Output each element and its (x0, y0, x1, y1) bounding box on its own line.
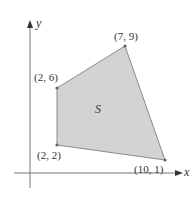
diagram-svg (0, 0, 195, 198)
vertex-point (123, 44, 126, 47)
y-axis-arrow-icon (27, 20, 33, 28)
vertex-point (55, 86, 58, 89)
vertex-label: (2, 2) (37, 150, 61, 161)
diagram-canvas: y x (2, 6) (7, 9) (10, 1) (2, 2) S (0, 0, 195, 198)
y-axis-label: y (36, 17, 41, 29)
x-axis-label: x (184, 166, 189, 178)
region-label: S (95, 103, 101, 115)
vertex-label: (2, 6) (34, 72, 58, 83)
vertex-label: (10, 1) (134, 164, 163, 175)
x-axis-arrow-icon (175, 170, 183, 176)
vertex-point (55, 143, 58, 146)
region-s (57, 46, 165, 160)
vertex-point (163, 158, 166, 161)
vertex-label: (7, 9) (114, 31, 138, 42)
